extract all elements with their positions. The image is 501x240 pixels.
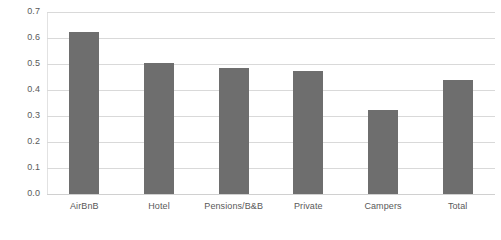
x-tick-label: Campers [346,201,421,212]
bar [69,32,99,195]
x-tick-label: Private [271,201,346,212]
y-tick-label: 0.5 [6,59,40,68]
x-axis-category-labels: AirBnB Hotel Pensions/B&B Private Camper… [47,201,495,221]
x-axis-baseline [47,194,495,195]
gridline [47,168,495,169]
x-tick-label: Pensions/B&B [196,201,271,212]
y-tick-label: 0.1 [6,163,40,172]
gridline [47,38,495,39]
gridline [47,64,495,65]
y-tick-label: 0.6 [6,33,40,42]
plot-area [47,12,495,194]
y-tick-label: 0.2 [6,137,40,146]
gridline [47,142,495,143]
bar [219,68,249,194]
bar-chart: 0.7 0.6 0.5 0.4 0.3 0.2 0.1 0.0 AirBnB H… [0,0,501,240]
bar [144,63,174,194]
y-tick-label: 0.4 [6,85,40,94]
x-tick-label: Total [420,201,495,212]
y-tick-label: 0.7 [6,7,40,16]
gridline [47,116,495,117]
gridline [47,90,495,91]
y-tick-label: 0.0 [6,189,40,198]
y-tick-label: 0.3 [6,111,40,120]
bar [368,110,398,194]
bar [443,80,473,194]
x-tick-label: AirBnB [47,201,122,212]
x-tick-label: Hotel [122,201,197,212]
gridline [47,12,495,13]
bar [293,71,323,194]
y-axis-tick-labels: 0.7 0.6 0.5 0.4 0.3 0.2 0.1 0.0 [0,0,40,240]
